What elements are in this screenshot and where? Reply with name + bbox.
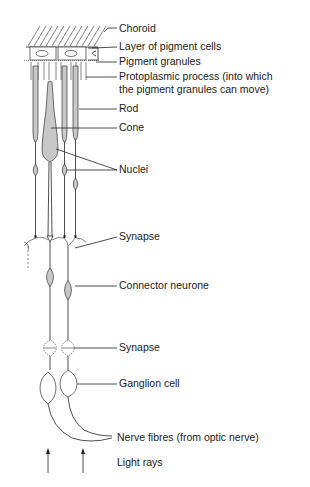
label-ganglion-cell: Ganglion cell [119,377,180,389]
label-protoplasmic-process-1: Protoplasmic process (into which [119,70,273,82]
label-nuclei: Nuclei [119,163,148,175]
leader-lines [51,28,117,384]
cone [42,81,58,242]
ganglion-cells [40,370,77,404]
label-pigment-granules: Pigment granules [119,55,201,67]
label-protoplasmic-process-2: the pigment granules can move) [119,83,269,95]
label-synapse-upper: Synapse [119,230,160,242]
label-connector-neurone: Connector neurone [119,279,209,291]
choroid-hatching [28,26,106,46]
label-rod: Rod [119,102,138,114]
lower-synapses [44,340,75,370]
label-nerve-fibres: Nerve fibres (from optic nerve) [117,431,259,443]
label-light-rays: Light rays [117,456,163,468]
light-ray-arrows [46,448,85,473]
rod-nuclei [33,164,78,190]
label-choroid: Choroid [119,22,156,34]
label-synapse-lower: Synapse [119,341,160,353]
pigment-cell-layer [24,47,100,61]
nerve-fibres [48,397,112,441]
upper-synapse-branches [24,237,86,280]
label-pigment-layer: Layer of pigment cells [119,40,221,52]
retina-diagram: Choroid Layer of pigment cells Pigment g… [0,0,310,487]
label-cone: Cone [119,121,144,133]
